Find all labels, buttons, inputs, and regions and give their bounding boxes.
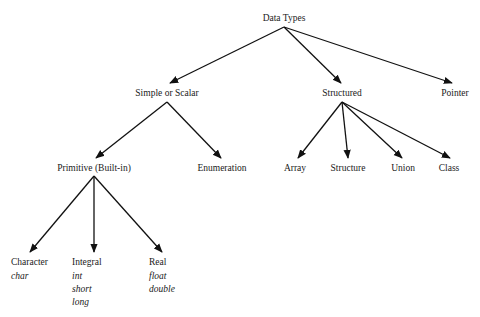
- node-integral: Integral int short long: [72, 256, 102, 308]
- node-array: Array: [284, 162, 306, 174]
- keyword-double: double: [149, 283, 175, 295]
- keyword-long: long: [72, 296, 102, 308]
- node-character: Character char: [11, 256, 48, 282]
- edge-simple-enumeration: [167, 102, 221, 158]
- edge-primitive-real: [94, 176, 162, 252]
- node-structured: Structured: [322, 87, 362, 99]
- node-real: Real float double: [149, 256, 175, 295]
- node-enumeration: Enumeration: [197, 162, 246, 174]
- node-pointer: Pointer: [441, 87, 468, 99]
- edge-root-structured: [284, 27, 341, 83]
- node-data-types: Data Types: [263, 12, 306, 24]
- edge-root-simple: [170, 27, 284, 83]
- integral-label: Integral: [72, 256, 102, 268]
- edge-structured-structure: [342, 102, 348, 158]
- node-union: Union: [391, 162, 415, 174]
- keyword-short: short: [72, 283, 102, 295]
- character-label: Character: [11, 256, 48, 268]
- node-primitive: Primitive (Built-in): [57, 162, 131, 174]
- edge-structured-class: [342, 102, 450, 158]
- node-class: Class: [439, 162, 460, 174]
- edge-root-pointer: [284, 27, 452, 83]
- edge-simple-primitive: [96, 102, 167, 158]
- keyword-char: char: [11, 270, 48, 282]
- node-structure: Structure: [331, 162, 366, 174]
- node-simple-or-scalar: Simple or Scalar: [135, 87, 198, 99]
- real-label: Real: [149, 256, 175, 268]
- keyword-float: float: [149, 270, 175, 282]
- edge-structured-array: [298, 102, 342, 158]
- edge-structured-union: [342, 102, 402, 158]
- edge-primitive-character: [30, 176, 94, 252]
- keyword-int: int: [72, 270, 102, 282]
